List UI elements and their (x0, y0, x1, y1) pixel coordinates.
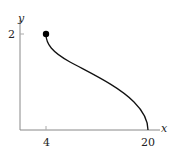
y-axis-label: y (17, 12, 25, 25)
y-tick-label-2: 2 (8, 28, 15, 41)
start-point-dot (43, 31, 49, 37)
x-axis-label: x (161, 122, 168, 135)
x-tick-label-20: 20 (141, 136, 155, 149)
curve-line (46, 34, 148, 130)
x-tick-label-4: 4 (43, 136, 50, 149)
chart: y 2 x 4 20 (0, 0, 174, 158)
